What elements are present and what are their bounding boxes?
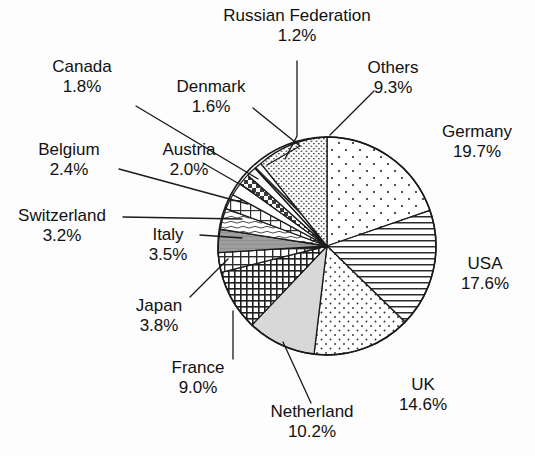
label-denmark-percent: 1.6% xyxy=(159,97,263,117)
label-switzerland-percent: 3.2% xyxy=(2,226,122,246)
label-others-percent: 9.3% xyxy=(341,78,445,98)
pie-chart-figure: Russian Federation 1.2% Others 9.3% Cana… xyxy=(0,0,535,456)
label-austria: Austria 2.0% xyxy=(142,140,236,180)
label-russian-federation: Russian Federation 1.2% xyxy=(191,6,403,46)
label-canada-name: Canada xyxy=(28,57,136,77)
label-switzerland-name: Switzerland xyxy=(2,206,122,226)
label-italy: Italy 3.5% xyxy=(136,225,200,265)
label-japan-percent: 3.8% xyxy=(117,316,201,336)
label-belgium: Belgium 2.4% xyxy=(17,140,121,180)
label-austria-percent: 2.0% xyxy=(142,160,236,180)
label-italy-percent: 3.5% xyxy=(136,245,200,265)
label-others-name: Others xyxy=(341,58,445,78)
label-france-percent: 9.0% xyxy=(152,378,244,398)
label-usa-percent: 17.6% xyxy=(442,274,528,294)
label-denmark: Denmark 1.6% xyxy=(159,77,263,117)
label-germany: Germany 19.7% xyxy=(422,122,532,162)
label-germany-percent: 19.7% xyxy=(422,142,532,162)
label-austria-name: Austria xyxy=(142,140,236,160)
label-japan-name: Japan xyxy=(117,296,201,316)
label-netherland-percent: 10.2% xyxy=(249,422,375,442)
label-belgium-percent: 2.4% xyxy=(17,160,121,180)
label-russian-federation-name: Russian Federation xyxy=(191,6,403,26)
label-uk: UK 14.6% xyxy=(383,375,463,415)
label-switzerland: Switzerland 3.2% xyxy=(2,206,122,246)
label-netherland-name: Netherland xyxy=(249,402,375,422)
label-usa: USA 17.6% xyxy=(442,254,528,294)
label-canada: Canada 1.8% xyxy=(28,57,136,97)
label-japan: Japan 3.8% xyxy=(117,296,201,336)
label-others: Others 9.3% xyxy=(341,58,445,98)
label-belgium-name: Belgium xyxy=(17,140,121,160)
label-netherland: Netherland 10.2% xyxy=(249,402,375,442)
label-usa-name: USA xyxy=(442,254,528,274)
label-germany-name: Germany xyxy=(422,122,532,142)
label-canada-percent: 1.8% xyxy=(28,77,136,97)
label-russian-federation-percent: 1.2% xyxy=(191,26,403,46)
label-italy-name: Italy xyxy=(136,225,200,245)
label-uk-percent: 14.6% xyxy=(383,395,463,415)
label-france: France 9.0% xyxy=(152,358,244,398)
label-france-name: France xyxy=(152,358,244,378)
pie-slices xyxy=(218,137,436,355)
label-denmark-name: Denmark xyxy=(159,77,263,97)
label-uk-name: UK xyxy=(383,375,463,395)
